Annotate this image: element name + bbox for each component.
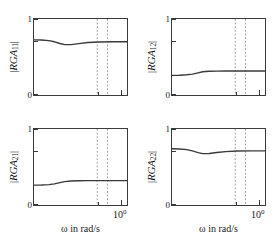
x-axis-label-rga22: ω in rad/s xyxy=(171,224,266,234)
y-tick-label-top-rga12: 1 xyxy=(166,15,171,24)
y-axis-label-bar-open: | xyxy=(146,181,157,183)
panel-rga12: |RGA12| 1 0 xyxy=(138,0,275,118)
x-tick-mantissa: 10 xyxy=(113,209,123,220)
y-axis-label-subscript: 11 xyxy=(10,43,21,50)
plot-svg-rga22 xyxy=(172,129,265,205)
y-axis-label-bar-open: | xyxy=(8,181,19,183)
plot-svg-rga11 xyxy=(34,19,127,95)
y-tick-label-bottom-rga12: 0 xyxy=(166,91,171,100)
y-tick-label-top-rga21: 1 xyxy=(28,125,33,134)
x-tick-exponent: 0 xyxy=(123,208,127,216)
y-tick-label-bottom-rga22: 0 xyxy=(166,201,171,210)
y-axis-label-rga12: |RGA12| xyxy=(144,18,158,96)
panel-rga22: |RGA22| 1 0 100 ω in rad/s xyxy=(138,110,275,228)
y-axis-label-name: RGA xyxy=(8,160,19,181)
plot-svg-rga12 xyxy=(172,19,265,95)
data-series-line xyxy=(172,71,265,75)
y-axis-label-rga21: |RGA21| xyxy=(6,128,20,206)
y-axis-label-bar-open: | xyxy=(146,71,157,73)
y-axis-label-subscript: 22 xyxy=(148,153,159,160)
y-tick-label-top-rga22: 1 xyxy=(166,125,171,134)
x-tick-label-decade-rga21: 100 xyxy=(113,210,127,221)
plot-svg-rga21 xyxy=(34,129,127,205)
x-tick-mantissa: 10 xyxy=(251,209,261,220)
y-tick-label-bottom-rga21: 0 xyxy=(28,201,33,210)
x-tick-label-decade-rga22: 100 xyxy=(251,210,265,221)
plot-area-rga12: 1 0 xyxy=(171,18,266,96)
y-tick-label-top-rga11: 1 xyxy=(28,15,33,24)
plot-area-rga11: 1 0 xyxy=(33,18,128,96)
data-series-line xyxy=(34,181,127,185)
panel-rga21: |RGA21| 1 0 100 ω in rad/s xyxy=(0,110,137,228)
x-axis-label-rga21: ω in rad/s xyxy=(33,224,128,234)
plot-area-rga21: 1 0 xyxy=(33,128,128,206)
y-tick-label-bottom-rga11: 0 xyxy=(28,91,33,100)
plot-area-rga22: 1 0 xyxy=(171,128,266,206)
panel-rga11: |RGA11| 1 0 xyxy=(0,0,137,118)
y-axis-label-name: RGA xyxy=(146,50,157,71)
y-axis-label-bar-open: | xyxy=(8,71,19,73)
y-axis-label-subscript: 12 xyxy=(148,43,159,50)
y-axis-label-subscript: 21 xyxy=(10,153,21,160)
y-axis-label-rga11: |RGA11| xyxy=(6,18,20,96)
y-axis-label-name: RGA xyxy=(8,50,19,71)
data-series-line xyxy=(34,40,127,45)
rga-magnitude-figure: |RGA11| 1 0 |RGA12| 1 0 xyxy=(0,0,275,237)
data-series-line xyxy=(172,149,265,154)
x-tick-exponent: 0 xyxy=(261,208,265,216)
y-axis-label-name: RGA xyxy=(146,160,157,181)
y-axis-label-rga22: |RGA22| xyxy=(144,128,158,206)
